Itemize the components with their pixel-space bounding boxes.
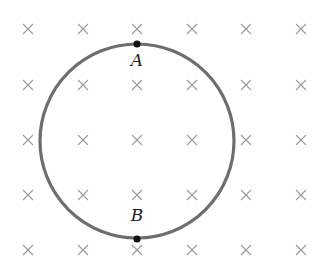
field-cross-icon <box>296 24 306 34</box>
field-cross-icon <box>241 80 251 90</box>
field-cross-icon <box>241 135 251 145</box>
field-cross-icon <box>23 135 33 145</box>
field-cross-icon <box>78 245 88 255</box>
field-cross-icon <box>241 190 251 200</box>
field-cross-icon <box>187 135 197 145</box>
field-cross-icon <box>132 80 142 90</box>
field-cross-icon <box>23 245 33 255</box>
field-cross-icon <box>23 24 33 34</box>
magnetic-field-diagram: AB <box>0 0 329 275</box>
magnetic-field-crosses <box>23 24 306 255</box>
point-a-dot <box>133 40 140 47</box>
field-cross-icon <box>78 135 88 145</box>
field-cross-icon <box>187 190 197 200</box>
field-cross-icon <box>187 245 197 255</box>
field-cross-icon <box>241 245 251 255</box>
field-cross-icon <box>78 24 88 34</box>
field-cross-icon <box>187 24 197 34</box>
field-cross-icon <box>296 190 306 200</box>
field-cross-icon <box>296 245 306 255</box>
point-a-label: A <box>129 50 143 70</box>
field-cross-icon <box>23 190 33 200</box>
field-cross-icon <box>187 80 197 90</box>
field-cross-icon <box>132 245 142 255</box>
field-cross-icon <box>78 190 88 200</box>
field-cross-icon <box>132 190 142 200</box>
field-cross-icon <box>132 135 142 145</box>
point-b-label: B <box>130 205 144 225</box>
field-cross-icon <box>296 80 306 90</box>
field-cross-icon <box>78 80 88 90</box>
field-cross-icon <box>296 135 306 145</box>
field-cross-icon <box>241 24 251 34</box>
field-cross-icon <box>23 80 33 90</box>
point-b-dot <box>133 235 140 242</box>
field-cross-icon <box>132 24 142 34</box>
